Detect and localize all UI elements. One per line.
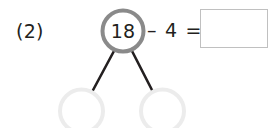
worksheet-problem: (2) 18 – 4 = <box>0 0 275 128</box>
bond-connector-right <box>132 51 153 92</box>
bond-part-circle-left[interactable] <box>60 90 103 129</box>
bond-total-value: 18 <box>100 8 146 54</box>
equation-operator-text: – 4 = <box>147 19 203 41</box>
problem-number-label: (2) <box>16 20 44 42</box>
answer-input-box[interactable] <box>200 9 268 48</box>
bond-part-circle-right[interactable] <box>141 90 184 129</box>
bond-connector-left <box>92 51 114 92</box>
answer-value <box>201 10 267 47</box>
